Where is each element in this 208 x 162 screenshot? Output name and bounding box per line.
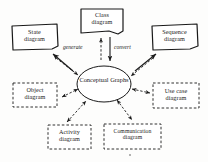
- node-shape-sequence-diagram[interactable]: [152, 24, 198, 50]
- edge-state-diagram-to-center: [56, 58, 78, 75]
- node-shape-use-case-diagram[interactable]: [153, 83, 199, 108]
- edge-sequence-diagram-to-center: [131, 58, 153, 76]
- edge-center-to-sequence-diagram: [135, 54, 156, 71]
- edge-label-generate: generate: [63, 44, 83, 50]
- node-shape-communication-diagram[interactable]: [104, 124, 161, 149]
- edge-object-diagram-center: [62, 89, 78, 97]
- node-shape-conceptual-graphs[interactable]: [77, 66, 131, 102]
- node-shape-activity-diagram[interactable]: [48, 125, 91, 149]
- edge-use-case-diagram-center: [132, 89, 150, 93]
- center-label-conceptual-graphs: Conceptual Graphs: [77, 76, 131, 84]
- edge-communication-diagram-center: [117, 100, 132, 120]
- center-label-line1: Conceptual: [79, 76, 108, 83]
- edge-label-convert: convert: [114, 44, 131, 50]
- node-shape-object-diagram[interactable]: [13, 83, 57, 107]
- diagram-canvas: Class diagram State diagram Sequence dia…: [0, 0, 208, 162]
- node-shape-class-diagram[interactable]: [81, 9, 123, 34]
- edge-activity-diagram-center: [67, 101, 86, 122]
- node-shape-state-diagram[interactable]: [12, 24, 58, 50]
- stray-mark: [129, 154, 131, 156]
- center-label-line2: Graphs: [110, 76, 128, 83]
